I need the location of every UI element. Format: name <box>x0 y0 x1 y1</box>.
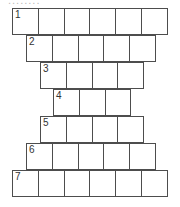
puzzle-cell[interactable] <box>115 170 142 197</box>
puzzle-cell[interactable]: 1 <box>12 8 39 35</box>
puzzle-cell[interactable] <box>92 62 119 89</box>
puzzle-cell[interactable] <box>38 170 65 197</box>
puzzle-cell[interactable] <box>117 116 144 143</box>
puzzle-cell[interactable]: 2 <box>26 35 53 62</box>
row-number-label: 2 <box>29 37 35 47</box>
puzzle-cell[interactable] <box>89 8 116 35</box>
puzzle-cell[interactable] <box>115 8 142 35</box>
row-number-label: 1 <box>15 10 21 20</box>
puzzle-cell[interactable] <box>141 170 168 197</box>
puzzle-grid: 1 2 3 4 5 6 7 <box>0 0 180 207</box>
puzzle-row-2: 2 <box>26 35 156 62</box>
puzzle-cell[interactable] <box>141 8 168 35</box>
puzzle-cell[interactable]: 5 <box>40 116 67 143</box>
puzzle-cell[interactable] <box>64 170 91 197</box>
puzzle-cell[interactable] <box>38 8 65 35</box>
puzzle-cell[interactable]: 6 <box>26 143 53 170</box>
puzzle-cell[interactable] <box>78 35 105 62</box>
puzzle-cell[interactable] <box>79 89 106 116</box>
puzzle-cell[interactable]: 4 <box>53 89 80 116</box>
puzzle-row-1: 1 <box>12 8 168 35</box>
puzzle-cell[interactable] <box>103 35 130 62</box>
puzzle-cell[interactable] <box>129 35 156 62</box>
puzzle-cell[interactable] <box>64 8 91 35</box>
puzzle-row-7: 7 <box>12 170 168 197</box>
puzzle-cell[interactable] <box>66 116 93 143</box>
puzzle-row-6: 6 <box>26 143 156 170</box>
row-number-label: 3 <box>43 64 49 74</box>
puzzle-cell[interactable] <box>92 116 119 143</box>
puzzle-cell[interactable] <box>103 143 130 170</box>
puzzle-cell[interactable] <box>129 143 156 170</box>
puzzle-row-4: 4 <box>53 89 131 116</box>
puzzle-row-5: 5 <box>40 116 144 143</box>
puzzle-cell[interactable] <box>117 62 144 89</box>
puzzle-row-3: 3 <box>40 62 144 89</box>
row-number-label: 6 <box>29 145 35 155</box>
row-number-label: 7 <box>15 172 21 182</box>
puzzle-cell[interactable] <box>89 170 116 197</box>
puzzle-cell[interactable] <box>52 35 79 62</box>
puzzle-cell[interactable] <box>78 143 105 170</box>
puzzle-cell[interactable]: 7 <box>12 170 39 197</box>
puzzle-cell[interactable] <box>105 89 132 116</box>
puzzle-cell[interactable] <box>52 143 79 170</box>
row-number-label: 5 <box>43 118 49 128</box>
row-number-label: 4 <box>56 91 62 101</box>
puzzle-cell[interactable]: 3 <box>40 62 67 89</box>
puzzle-cell[interactable] <box>66 62 93 89</box>
